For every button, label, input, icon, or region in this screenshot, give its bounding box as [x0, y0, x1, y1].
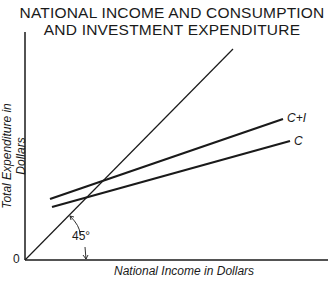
y-axis-label: Total Expenditure in Dollars: [0, 86, 28, 226]
line-45-degree: [25, 49, 233, 260]
chart-plot: [0, 0, 328, 292]
line-c: [52, 141, 290, 207]
x-axis-label: National Income in Dollars: [114, 264, 254, 278]
series-label-c: C: [294, 134, 303, 148]
angle-arrow-bottom: [83, 247, 88, 259]
origin-label: 0: [13, 252, 20, 266]
series-label-c-plus-i: C+I: [287, 111, 306, 125]
angle-label: 45°: [72, 229, 90, 243]
line-c-plus-i: [50, 119, 283, 199]
